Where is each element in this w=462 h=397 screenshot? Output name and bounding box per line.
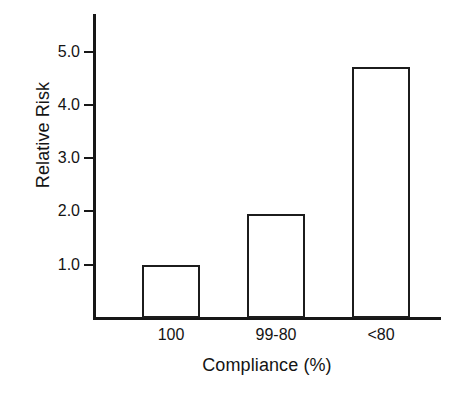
x-axis-tick-label: 100 (116, 326, 226, 344)
y-axis-tick-mark (84, 264, 94, 266)
y-axis-tick-label: 2.0 (30, 203, 80, 219)
x-axis-tick-label: <80 (326, 326, 436, 344)
bar (247, 214, 305, 318)
y-axis-tick-mark (84, 210, 94, 212)
y-axis-tick-label: 4.0 (30, 97, 80, 113)
y-axis-tick-mark (84, 157, 94, 159)
bar (142, 265, 200, 318)
y-axis-tick-label: 5.0 (30, 44, 80, 60)
x-axis-title: Compliance (%) (94, 355, 440, 376)
y-axis-line (93, 14, 96, 320)
bar (352, 67, 410, 318)
y-axis-tick-mark (84, 51, 94, 53)
x-axis-tick-label: 99-80 (221, 326, 331, 344)
y-axis-tick-label: 1.0 (30, 257, 80, 273)
y-axis-tick-label: 3.0 (30, 150, 80, 166)
y-axis-tick-mark (84, 104, 94, 106)
bar-chart-figure: Relative Risk 1.02.03.04.05.0 10099-80<8… (0, 0, 462, 397)
